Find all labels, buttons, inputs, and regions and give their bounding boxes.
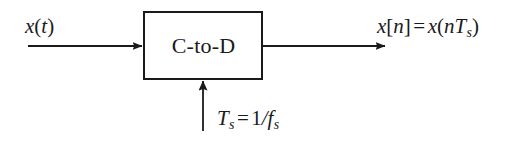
sampling-numerator: 1 <box>251 106 262 130</box>
input-signal-label: x(t) <box>25 16 54 37</box>
block-diagram: C-to-D x(t) x[n]=x(nTs) Ts=1/fs <box>0 0 516 145</box>
input-variable: x <box>25 14 34 38</box>
sampling-period-label: Ts=1/fs <box>217 108 279 129</box>
output-lhs-variable: x <box>377 14 386 38</box>
output-rhs-period-symbol: T <box>455 14 467 38</box>
input-close-paren: ) <box>47 14 54 38</box>
output-rhs-variable: x <box>428 14 437 38</box>
output-signal-label: x[n]=x(nTs) <box>377 16 479 37</box>
output-lhs-index: n <box>393 14 404 38</box>
output-lhs-close-bracket: ] <box>404 14 411 38</box>
output-rhs-close-paren: ) <box>472 14 479 38</box>
sampling-equals-sign: = <box>234 106 251 130</box>
output-rhs-open-paren: ( <box>437 14 444 38</box>
block-label: C-to-D <box>144 33 263 59</box>
output-rhs-index: n <box>444 14 455 38</box>
sampling-frequency-symbol: f <box>268 106 274 130</box>
sampling-frequency-subscript: s <box>274 117 279 132</box>
output-equals-sign: = <box>411 14 428 38</box>
sampling-period-symbol: T <box>217 106 229 130</box>
